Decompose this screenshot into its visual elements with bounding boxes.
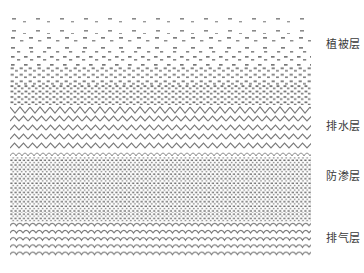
layer-band-drainage — [10, 105, 311, 150]
anti-seepage-hatch-icon — [10, 150, 311, 213]
vegetation-hatch-icon — [10, 14, 311, 105]
section-drawing — [10, 14, 311, 263]
layer-label-vegetation: 植被层 — [326, 38, 361, 51]
gas-venting-hatch-icon — [10, 213, 311, 262]
layered-section-diagram: 植被层 排水层 防渗层 排气层 — [0, 0, 364, 273]
layer-band-vegetation — [10, 14, 311, 105]
layer-label-anti-seepage: 防渗层 — [326, 170, 361, 183]
drainage-hatch-icon — [10, 105, 311, 150]
layer-band-anti-seepage — [10, 150, 311, 213]
layer-label-gas-venting: 排气层 — [326, 232, 361, 245]
layer-band-gas-venting — [10, 213, 311, 262]
layer-label-drainage: 排水层 — [326, 120, 361, 133]
